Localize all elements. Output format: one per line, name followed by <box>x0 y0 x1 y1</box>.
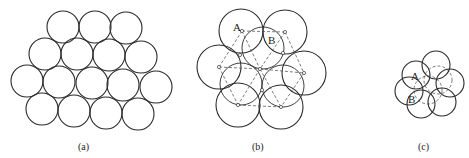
sphere-circle <box>26 93 58 125</box>
lattice-point <box>217 65 220 68</box>
sphere-circle <box>107 69 139 101</box>
caption-c: (c) <box>418 141 429 153</box>
sphere-circle <box>76 67 108 99</box>
sphere-circle <box>58 95 90 127</box>
sphere-circle <box>61 38 93 70</box>
panel-a-hexagonal-layer <box>11 11 172 130</box>
sphere-circle <box>122 98 154 130</box>
sphere-circle <box>11 65 43 97</box>
sphere-circle <box>93 39 125 71</box>
lattice-edge <box>219 67 238 105</box>
lattice-edge <box>260 69 281 107</box>
sphere-circle <box>110 12 142 44</box>
lattice-point <box>258 67 261 70</box>
lattice-point <box>238 53 241 56</box>
lattice-point <box>279 105 282 108</box>
point-label-a: A <box>233 21 241 33</box>
lattice-point <box>283 30 286 33</box>
sphere-circle <box>90 97 122 129</box>
lattice-edge <box>219 31 242 67</box>
point-label-a: A <box>411 70 419 82</box>
lattice-edge <box>281 73 304 107</box>
lattice-edge <box>242 31 285 32</box>
panel-b-two-layer-lattice: AB <box>197 9 326 129</box>
caption-a: (a) <box>78 141 89 153</box>
lattice-edge <box>238 69 260 105</box>
close-packing-diagram: AB AB (a) (b) (c) <box>0 0 469 158</box>
point-label-b: B <box>268 34 275 46</box>
lattice-point <box>281 51 284 54</box>
lattice-point <box>260 88 263 91</box>
point-label-b: B <box>408 93 415 105</box>
sphere-circle <box>140 71 172 103</box>
lattice-point <box>236 103 239 106</box>
inner-sphere-circle <box>262 65 304 107</box>
lattice-edge <box>285 32 304 73</box>
sphere-circle <box>125 41 157 73</box>
caption-b: (b) <box>252 141 264 153</box>
panel-c-cluster: AB <box>395 51 464 118</box>
sphere-circle <box>79 11 111 43</box>
sphere-circle <box>43 66 75 98</box>
sphere-circle <box>29 38 61 70</box>
lattice-point <box>302 71 305 74</box>
